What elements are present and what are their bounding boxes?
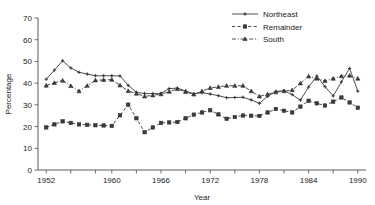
data-point-marker (332, 100, 335, 103)
y-tick-label: 60 (23, 36, 32, 45)
chart-container: 0102030405060701952196019661972197819841… (0, 0, 375, 205)
data-point-marker (348, 101, 351, 104)
legend-label: Remainder (263, 23, 302, 32)
y-tick-label: 0 (28, 166, 33, 175)
data-point-marker (307, 99, 310, 102)
x-tick-label: 1990 (349, 176, 367, 185)
data-point-marker (94, 74, 97, 77)
series-remainder (45, 96, 360, 134)
data-point-marker (200, 89, 204, 93)
data-point-marker (209, 109, 212, 112)
data-point-marker (225, 117, 228, 120)
y-tick-label: 40 (23, 79, 32, 88)
data-point-marker (61, 78, 65, 82)
data-point-marker (241, 96, 244, 99)
data-point-marker (184, 117, 187, 120)
data-point-marker (69, 84, 73, 88)
series-northeast (45, 59, 360, 105)
data-point-marker (307, 74, 311, 78)
data-point-marker (176, 120, 179, 123)
data-point-marker (94, 124, 97, 127)
data-point-marker (200, 111, 203, 114)
data-point-marker (159, 121, 162, 124)
data-point-marker (282, 109, 285, 112)
legend-item-remainder: Remainder (232, 23, 302, 32)
data-point-marker (168, 121, 171, 124)
x-tick-label: 1984 (300, 176, 318, 185)
data-point-marker (86, 123, 89, 126)
legend-label: Northeast (263, 10, 298, 19)
data-point-marker (77, 71, 80, 74)
chart-tick-labels: 0102030405060701952196019661972197819841… (23, 14, 367, 185)
x-axis-title: Year (194, 193, 211, 202)
line-chart: 0102030405060701952196019661972197819841… (0, 0, 375, 205)
data-point-marker (110, 74, 113, 77)
legend-item-south: South (232, 35, 284, 44)
data-point-marker (340, 96, 343, 99)
data-point-marker (77, 89, 81, 93)
y-tick-label: 30 (23, 101, 32, 110)
data-point-marker (45, 126, 48, 129)
data-point-marker (233, 115, 236, 118)
data-point-marker (258, 114, 261, 117)
data-point-marker (209, 92, 212, 95)
y-tick-label: 20 (23, 123, 32, 132)
data-point-marker (208, 86, 212, 90)
data-point-marker (225, 84, 229, 88)
y-tick-label: 70 (23, 14, 32, 23)
x-tick-label: 1972 (201, 176, 219, 185)
data-point-marker (127, 103, 130, 106)
y-axis-title: Percentage (4, 73, 13, 114)
data-point-marker (315, 102, 318, 105)
data-point-marker (192, 113, 195, 116)
data-point-marker (126, 89, 130, 93)
series-line (46, 97, 358, 132)
legend-item-northeast: Northeast (232, 10, 298, 19)
x-tick-label: 1978 (251, 176, 269, 185)
chart-series (44, 59, 360, 134)
data-point-marker (274, 107, 277, 110)
data-point-marker (110, 124, 113, 127)
data-point-marker (216, 85, 220, 89)
data-point-marker (299, 105, 302, 108)
data-point-marker (102, 74, 105, 77)
data-point-marker (243, 12, 246, 15)
data-point-marker (250, 98, 253, 101)
data-point-marker (143, 131, 146, 134)
x-tick-label: 1960 (103, 176, 121, 185)
x-tick-label: 1952 (37, 176, 55, 185)
data-point-marker (266, 111, 269, 114)
data-point-marker (151, 126, 154, 129)
data-point-marker (53, 123, 56, 126)
data-point-marker (85, 84, 89, 88)
chart-legend: NortheastRemainderSouth (232, 10, 302, 44)
data-point-marker (225, 96, 228, 99)
data-point-marker (143, 94, 147, 98)
data-point-marker (323, 104, 326, 107)
data-point-marker (61, 120, 64, 123)
chart-ticks (35, 18, 358, 174)
data-point-marker (250, 114, 253, 117)
data-point-marker (118, 114, 121, 117)
data-point-marker (135, 117, 138, 120)
data-point-marker (167, 90, 171, 94)
data-point-marker (86, 72, 89, 75)
data-point-marker (69, 121, 72, 124)
data-point-marker (102, 124, 105, 127)
data-point-marker (291, 111, 294, 114)
data-point-marker (217, 94, 220, 97)
data-point-marker (356, 106, 359, 109)
data-point-marker (241, 114, 244, 117)
data-point-marker (233, 84, 237, 88)
data-point-marker (243, 25, 246, 28)
data-point-marker (249, 89, 253, 93)
y-tick-label: 50 (23, 57, 32, 66)
legend-label: South (263, 35, 284, 44)
x-tick-label: 1966 (152, 176, 170, 185)
data-point-marker (77, 123, 80, 126)
y-tick-label: 10 (23, 144, 32, 153)
data-point-marker (356, 89, 359, 92)
data-point-marker (217, 113, 220, 116)
data-point-marker (233, 96, 236, 99)
